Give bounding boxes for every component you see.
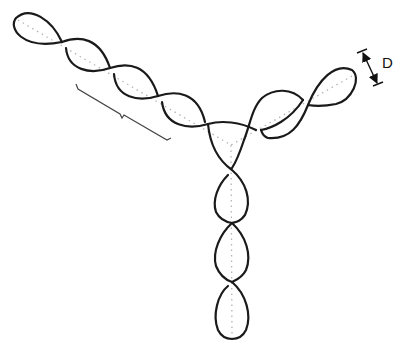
- helix-axes: [18, 20, 352, 338]
- left-arm-helix: [14, 13, 256, 130]
- dimension-tick-top: [357, 49, 367, 53]
- dimension-tick-bottom: [373, 82, 383, 86]
- dimension-arrow: [363, 53, 377, 83]
- diameter-label: D: [382, 54, 393, 71]
- diameter-dimension: D: [357, 49, 393, 86]
- bottom-arm-helix: [208, 124, 248, 339]
- right-arm-axis: [231, 76, 352, 145]
- three-way-junction-diagram: D: [0, 0, 401, 352]
- right-arm-helix: [232, 68, 356, 168]
- bottom-arm-axis: [231, 145, 232, 338]
